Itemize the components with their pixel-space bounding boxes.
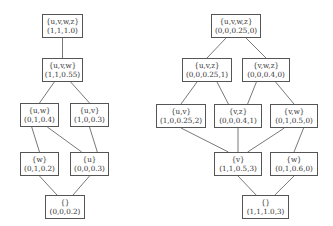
node-set-label: {u,v} [79,106,99,115]
edge-R_vwz-R_vz [248,82,257,104]
node-set-label: {u,v,w,z} [220,17,253,26]
edge-L_uw-L_u [47,127,81,152]
edge-L_uw-L_w [32,127,40,152]
edge-R_uvz-R_uv [181,82,197,104]
node-set-label: {u} [83,155,97,164]
node-set-label: {u,v,z} [194,61,219,70]
edge-L_uvw-L_uv [71,82,90,103]
left-node-uvw: {u,v,w} (1,1,0.55) [42,58,83,82]
right-node-uvz: {u,v,z} (0,0,0.25,1) [182,58,232,82]
node-tuple-label: (1,1,0.5,3) [219,164,257,173]
node-set-label: {w} [286,155,301,164]
right-node-vz: {v,z} (0,0,0.4,1) [214,104,262,128]
edge-R_v-R_empty [238,176,256,195]
node-set-label: {v,z} [229,107,247,116]
node-set-label: {v,w,z} [253,61,279,70]
node-set-label: {w} [32,155,47,164]
edge-R_uvwz-R_uvz [207,38,226,58]
node-tuple-label: (1,0,0.25,2) [160,116,202,125]
edge-R_vwz-R_vw [276,82,294,104]
right-node-v: {v} (1,1,0.5,3) [214,152,262,176]
edge-R_vw-R_w [294,128,304,152]
node-set-label: {v} [231,155,244,164]
node-set-label: {v,w} [284,107,305,116]
node-tuple-label: (0,1,0.6,0) [275,164,313,173]
node-tuple-label: (0,0,0.4,1) [219,116,257,125]
node-tuple-label: (1,0,0.3) [74,115,105,124]
node-tuple-label: (0,0,0.25,1) [186,70,228,79]
edge-R_uvwz-R_vwz [246,38,266,58]
node-tuple-label: (0,0,0.3) [74,164,105,173]
left-node-uv: {u,v} (1,0,0.3) [70,103,109,127]
left-node-uw: {u,w} (0,1,0.4) [20,103,59,127]
node-tuple-label: (1,1,0.55) [45,70,80,79]
right-node-uvwz: {u,v,w,z} (0,0,0.25,0) [211,14,261,38]
left-node-uvwz: {u,v,w,z} (1,1,1.0) [42,14,83,38]
left-node-u: {u} (0,0,0.3) [70,152,109,176]
right-node-uv: {u,v} (1,0,0.25,2) [156,104,206,128]
node-set-label: {} [261,198,270,207]
node-set-label: {u,v} [171,107,191,116]
right-node-empty: {} (1,1,1.0,3) [242,195,289,219]
node-set-label: {} [60,198,69,207]
edge-L_uvw-L_uw [40,82,55,103]
node-tuple-label: (0,1,0.2) [24,164,55,173]
right-node-w: {w} (0,1,0.6,0) [270,152,318,176]
node-tuple-label: (0,0,0.4,0) [247,70,285,79]
left-node-empty: {} (0,0,0.2) [45,195,85,219]
node-tuple-label: (0,1,0.5,0) [275,116,313,125]
node-tuple-label: (0,0,0.2) [50,207,81,216]
node-set-label: {u,v,w,z} [46,17,79,26]
node-tuple-label: (0,1,0.4) [24,115,55,124]
right-node-vw: {v,w} (0,1,0.5,0) [270,104,318,128]
edge-R_uv-R_v [181,128,228,152]
edge-R_vw-R_v [248,128,285,152]
right-node-vwz: {v,w,z} (0,0,0.4,0) [242,58,290,82]
node-set-label: {u,w} [28,106,50,115]
node-tuple-label: (0,0,0.25,0) [215,26,257,35]
left-node-w: {w} (0,1,0.2) [20,152,59,176]
edge-L_uv-L_u [90,127,98,152]
edge-R_uvz-R_vz [217,82,228,104]
edge-L_u-L_empty [73,176,90,195]
edge-L_w-L_empty [40,176,58,195]
node-tuple-label: (1,1,1.0,3) [247,207,285,216]
node-tuple-label: (1,1,1.0) [47,26,78,35]
edge-R_w-R_empty [275,176,294,195]
node-set-label: {u,v,w} [49,61,77,70]
